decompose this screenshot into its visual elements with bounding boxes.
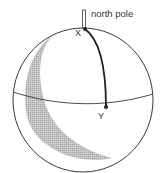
- globe-svg: [0, 0, 167, 173]
- north-pole-marker: [83, 10, 86, 28]
- point-y-dot: [104, 105, 108, 109]
- globe-diagram: north pole X Y: [0, 0, 167, 173]
- north-pole-label: north pole: [91, 9, 133, 19]
- meridian-arc-x-to-y: [85, 29, 106, 107]
- point-x-dot: [83, 27, 87, 31]
- point-y-label: Y: [98, 112, 104, 121]
- point-x-label: X: [75, 29, 81, 38]
